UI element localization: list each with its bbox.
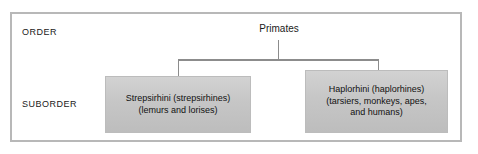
taxon-box-haplorhini-text: Haplorhini (haplorhines) (tarsiers, monk… <box>326 84 427 119</box>
row-label-suborder: SUBORDER <box>22 99 77 109</box>
taxon-box-strepsirhini[interactable]: Strepsirhini (strepsirhines) (lemurs and… <box>105 76 251 133</box>
taxon-line: (lemurs and lorises) <box>126 105 231 117</box>
primate-classification-diagram: ORDER SUBORDER Primates Strepsirhini (st… <box>0 0 478 154</box>
row-label-order: ORDER <box>22 27 57 37</box>
taxon-box-haplorhini[interactable]: Haplorhini (haplorhines) (tarsiers, monk… <box>305 70 448 133</box>
taxon-line: Haplorhini (haplorhines) <box>326 84 427 96</box>
taxon-box-strepsirhini-text: Strepsirhini (strepsirhines) (lemurs and… <box>126 93 231 116</box>
taxon-line: Strepsirhini (strepsirhines) <box>126 93 231 105</box>
taxon-line: (tarsiers, monkeys, apes, <box>326 96 427 108</box>
root-node-primates: Primates <box>239 23 319 34</box>
taxon-line: and humans) <box>326 107 427 119</box>
